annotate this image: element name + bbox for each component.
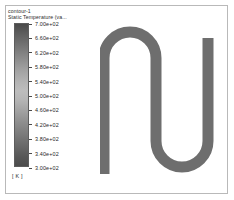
- colorbar-tick: 3.80e+02: [29, 135, 59, 143]
- colorbar-tick: 4.60e+02: [29, 106, 59, 114]
- colorbar-tick: 7.00e+02: [29, 20, 59, 28]
- tick-mark-icon: [29, 139, 32, 140]
- colorbar-tick: 6.60e+02: [29, 34, 59, 42]
- colorbar-tick-label: 6.20e+02: [35, 50, 59, 56]
- geometry-viewport: [100, 6, 227, 193]
- colorbar-tick-label: 5.40e+02: [35, 79, 59, 85]
- colorbar-unit-label: [ K ]: [12, 173, 23, 180]
- serpentine-duct-svg: [100, 6, 227, 193]
- colorbar-tick: 6.20e+02: [29, 49, 59, 57]
- colorbar-tick: 3.00e+02: [29, 164, 59, 172]
- contour-plot-screenshot: contour-1 Static Temperature (va... 7.00…: [0, 0, 234, 200]
- colorbar-tick-label: 6.60e+02: [35, 35, 59, 41]
- tick-mark-icon: [29, 52, 32, 53]
- colorbar-tick-label: 3.40e+02: [35, 151, 59, 157]
- tick-mark-icon: [29, 124, 32, 125]
- colorbar-tick: 3.40e+02: [29, 150, 59, 158]
- colorbar-tick-label: 5.80e+02: [35, 64, 59, 70]
- colorbar-tick: 5.80e+02: [29, 63, 59, 71]
- tick-mark-icon: [29, 96, 32, 97]
- colorbar-container: [14, 23, 29, 167]
- tick-mark-icon: [29, 24, 32, 25]
- legend-panel: contour-1 Static Temperature (va... 7.00…: [8, 8, 100, 184]
- colorbar-tick: 5.00e+02: [29, 92, 59, 100]
- tick-mark-icon: [29, 110, 32, 111]
- colorbar-tick-label: 3.00e+02: [35, 165, 59, 171]
- colorbar-tick-label: 4.60e+02: [35, 107, 59, 113]
- tick-mark-icon: [29, 38, 32, 39]
- tick-mark-icon: [29, 81, 32, 82]
- tick-mark-icon: [29, 67, 32, 68]
- colorbar-tick: 5.40e+02: [29, 78, 59, 86]
- colorbar-tick-label: 7.00e+02: [35, 21, 59, 27]
- colorbar-tick-label: 4.20e+02: [35, 122, 59, 128]
- legend-title: contour-1: [8, 8, 31, 14]
- duct-path: [104, 32, 208, 174]
- colorbar-tick-label: 5.00e+02: [35, 93, 59, 99]
- colorbar-tick: 4.20e+02: [29, 121, 59, 129]
- tick-mark-icon: [29, 153, 32, 154]
- colorbar-gradient: [14, 23, 29, 167]
- tick-mark-icon: [29, 168, 32, 169]
- colorbar-tick-label: 3.80e+02: [35, 136, 59, 142]
